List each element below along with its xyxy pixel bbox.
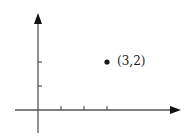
axes	[15, 13, 181, 133]
x-axis-arrow-icon	[170, 106, 181, 114]
point-label: (3,2)	[117, 55, 145, 67]
coordinate-plane	[0, 0, 191, 138]
data-point	[104, 59, 109, 64]
axis-ticks	[38, 62, 107, 110]
y-axis-arrow-icon	[34, 13, 42, 24]
data-points	[104, 59, 109, 64]
